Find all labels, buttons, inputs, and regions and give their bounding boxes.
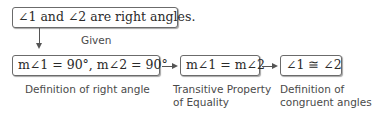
step2-reason-line2: of Equality (173, 96, 271, 109)
step3-statement-text: ∠1 ≅ ∠2 (286, 57, 342, 72)
arrow-given-to-step1 (39, 28, 40, 44)
step2-reason-label: Transitive Property of Equality (173, 83, 271, 109)
step1-statement-text: m∠1 = 90°, m∠2 = 90° (18, 57, 168, 72)
step1-statement-box: m∠1 = 90°, m∠2 = 90° (12, 55, 160, 76)
step2-statement-box: m∠1 = m∠2 (180, 55, 260, 76)
arrow-step2-to-step3 (262, 66, 273, 67)
step2-reason-line1: Transitive Property (173, 83, 271, 96)
step3-reason-label: Definition of congruent angles (280, 83, 372, 109)
given-statement-text: ∠1 and ∠2 are right angles. (18, 9, 195, 24)
arrow-step1-to-step2 (162, 66, 173, 67)
step2-statement-text: m∠1 = m∠2 (186, 57, 265, 72)
step3-reason-line2: congruent angles (280, 96, 372, 109)
step3-statement-box: ∠1 ≅ ∠2 (280, 55, 342, 76)
step1-reason-label: Definition of right angle (25, 83, 150, 96)
given-statement-box: ∠1 and ∠2 are right angles. (12, 7, 178, 28)
step3-reason-line1: Definition of (280, 83, 372, 96)
given-reason-label: Given (81, 34, 111, 47)
